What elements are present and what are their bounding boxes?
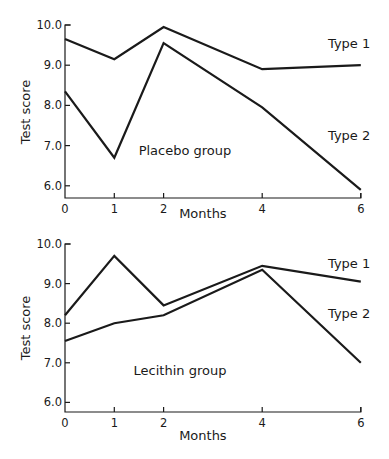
x-tick-label: 4	[259, 416, 266, 430]
x-tick-label: 2	[160, 416, 167, 430]
group-label: Lecithin group	[134, 363, 227, 378]
y-tick-label: 8.0	[44, 316, 62, 330]
y-axis-label: Test score	[18, 296, 33, 362]
series-line-1	[65, 27, 361, 69]
x-tick-label: 0	[61, 416, 68, 430]
series-label: Type 1	[327, 36, 370, 51]
y-tick-label: 7.0	[44, 356, 62, 370]
y-tick-label: 6.0	[44, 395, 62, 409]
x-tick-label: 2	[160, 202, 167, 216]
series-line-1	[65, 256, 361, 315]
y-tick-label: 6.0	[44, 179, 62, 193]
line-charts: 10.09.08.07.06.001246MonthsTest scorePla…	[0, 0, 389, 459]
x-tick-label: 4	[259, 202, 266, 216]
y-tick-label: 9.0	[44, 277, 62, 291]
y-tick-label: 8.0	[44, 98, 62, 112]
x-tick-label: 6	[357, 416, 364, 430]
y-tick-label: 7.0	[44, 139, 62, 153]
x-axis-label: Months	[179, 428, 227, 443]
x-tick-label: 6	[357, 202, 364, 216]
axes	[65, 244, 361, 412]
y-tick-label: 10.0	[36, 18, 62, 32]
y-tick-label: 9.0	[44, 58, 62, 72]
series-label: Type 2	[327, 306, 370, 321]
axes	[65, 25, 361, 198]
group-label: Placebo group	[139, 143, 232, 158]
lecithin-chart: 10.09.08.07.06.001246MonthsTest scoreLec…	[18, 237, 370, 443]
x-tick-label: 1	[111, 202, 118, 216]
series-line-2	[65, 270, 361, 363]
series-line-2	[65, 43, 361, 190]
placebo-chart: 10.09.08.07.06.001246MonthsTest scorePla…	[18, 18, 370, 221]
series-label: Type 1	[327, 256, 370, 271]
y-axis-label: Test score	[18, 80, 33, 146]
x-axis-label: Months	[179, 206, 227, 221]
series-label: Type 2	[327, 128, 370, 143]
y-tick-label: 10.0	[36, 237, 62, 251]
x-tick-label: 1	[111, 416, 118, 430]
x-tick-label: 0	[61, 202, 68, 216]
